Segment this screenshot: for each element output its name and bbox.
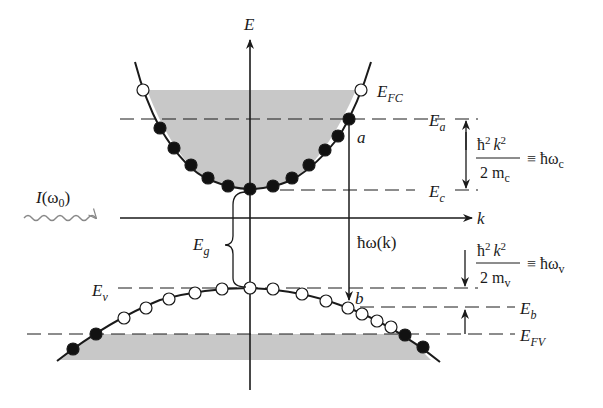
conduction-energy-formula: ħ2k2 2 mc ≡ ħωc — [476, 134, 564, 185]
transition-label: ħω(k) — [357, 233, 397, 252]
occupied-state-dot — [67, 343, 79, 355]
occupied-state-dot — [154, 122, 166, 134]
empty-state-dot — [189, 287, 201, 299]
svg-text:≡ ħωv: ≡ ħωv — [527, 255, 565, 276]
occupied-state-dot — [286, 172, 298, 184]
valence-filled-region — [60, 334, 431, 360]
occupied-state-dot — [343, 113, 355, 125]
point-b-label: b — [355, 289, 364, 308]
incident-light-wave-icon — [24, 216, 96, 221]
band-gap-label: Eg — [192, 235, 209, 258]
occupied-state-dot — [417, 341, 429, 353]
occupied-state-dot — [222, 180, 234, 192]
level-Ev-label: Ev — [91, 281, 108, 304]
band-diagram: E k — [0, 0, 603, 408]
level-EFV-label: EFV — [519, 326, 547, 349]
level-Ec-label: Ec — [428, 182, 445, 205]
empty-state-dot — [342, 302, 354, 314]
occupied-state-dot — [399, 329, 411, 341]
svg-text:ħ2k2: ħ2k2 — [477, 134, 506, 153]
incident-light-label: I(ω0) — [35, 188, 70, 210]
empty-state-dot — [140, 302, 152, 314]
level-Ea-label: Ea — [428, 111, 445, 134]
occupied-state-dot — [202, 172, 214, 184]
empty-state-dot — [296, 288, 308, 300]
k-axis-label: k — [477, 209, 485, 228]
empty-state-dot — [356, 308, 368, 320]
empty-state-dot — [118, 312, 130, 324]
occupied-state-dot — [319, 144, 331, 156]
energy-axis-label: E — [243, 15, 255, 34]
conduction-filled-region — [147, 90, 356, 189]
empty-state-dot — [244, 282, 256, 294]
empty-state-dot — [355, 84, 367, 96]
svg-text:2 mv: 2 mv — [480, 269, 510, 290]
valence-energy-formula: ħ2k2 2 mv ≡ ħωv — [476, 240, 565, 290]
svg-text:≡ ħωc: ≡ ħωc — [527, 150, 564, 171]
level-EFC-label: EFC — [376, 82, 404, 105]
level-Eb-label: Eb — [519, 299, 536, 322]
svg-text:ħ2k2: ħ2k2 — [477, 240, 506, 259]
empty-state-dot — [267, 283, 279, 295]
empty-state-dot — [137, 84, 149, 96]
occupied-state-dot — [303, 159, 315, 171]
empty-state-dot — [216, 283, 228, 295]
occupied-state-dot — [244, 183, 256, 195]
empty-state-dot — [320, 295, 332, 307]
point-a-label: a — [357, 128, 366, 147]
band-gap-brace — [225, 192, 246, 287]
occupied-state-dot — [90, 328, 102, 340]
empty-state-dot — [385, 321, 397, 333]
empty-state-dot — [163, 293, 175, 305]
occupied-state-dot — [168, 142, 180, 154]
empty-state-dot — [371, 315, 383, 327]
occupied-state-dot — [332, 130, 344, 142]
svg-text:2 mc: 2 mc — [480, 164, 510, 185]
occupied-state-dot — [267, 180, 279, 192]
occupied-state-dot — [185, 159, 197, 171]
